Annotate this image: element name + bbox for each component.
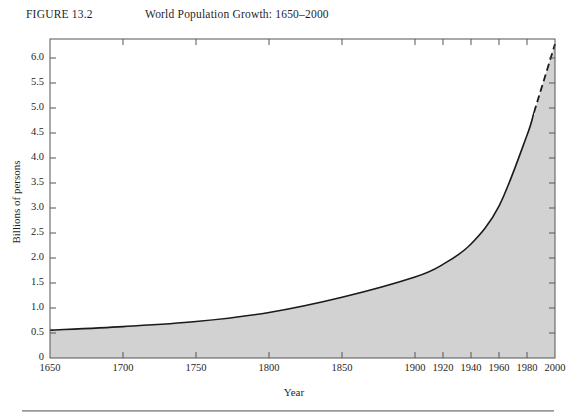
figure-container: FIGURE 13.2 World Population Growth: 165…	[0, 0, 575, 420]
y-tick-label: 5.5	[8, 76, 44, 87]
x-tick-label: 1700	[103, 362, 143, 373]
population-area	[50, 44, 555, 358]
y-tick-label: 2.0	[8, 251, 44, 262]
y-tick-label: 0	[8, 351, 44, 362]
x-tick-label: 2000	[535, 362, 575, 373]
y-tick-label: 3.5	[8, 176, 44, 187]
x-axis-title-text: Year	[284, 386, 304, 398]
x-tick-label: 1750	[176, 362, 216, 373]
y-tick-label: 5.0	[8, 101, 44, 112]
y-tick-label: 6.0	[8, 51, 44, 62]
y-tick-label: 1.0	[8, 301, 44, 312]
x-tick-label: 1850	[322, 362, 362, 373]
x-axis-title: Year	[0, 386, 575, 398]
x-tick-label: 1650	[30, 362, 70, 373]
y-tick-label: 4.5	[8, 126, 44, 137]
x-tick-label: 1800	[249, 362, 289, 373]
area-fill	[50, 44, 555, 358]
chart-plot	[0, 0, 575, 420]
y-tick-label: 0.5	[8, 326, 44, 337]
y-tick-label: 1.5	[8, 276, 44, 287]
y-tick-label: 4.0	[8, 151, 44, 162]
y-tick-label: 2.5	[8, 226, 44, 237]
footer-rule	[22, 410, 554, 412]
y-tick-label: 3.0	[8, 201, 44, 212]
